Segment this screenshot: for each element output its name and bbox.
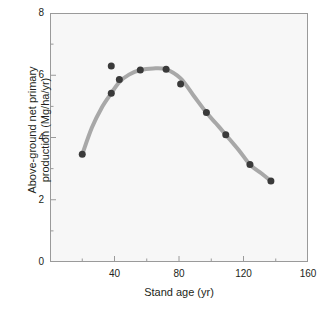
figure-container: 02468 4080120160 Stand age (yr) Above-gr… — [0, 0, 317, 312]
fitted-trend-line — [82, 68, 271, 181]
data-point-8 — [222, 131, 229, 138]
x-tick-label-120: 120 — [229, 269, 259, 279]
x-axis-major-ticks — [115, 256, 244, 262]
data-point-1 — [108, 62, 115, 69]
x-tick-label-40: 40 — [100, 269, 130, 279]
x-axis-title-text: Stand age (yr) — [144, 286, 214, 298]
data-point-4 — [137, 66, 144, 73]
data-point-markers — [79, 62, 275, 184]
data-point-10 — [267, 178, 274, 185]
y-axis-title-line-1: Above-ground net primary — [26, 5, 39, 255]
x-tick-label-160: 160 — [293, 269, 317, 279]
y-axis-title-line-2: production (Mg/ha/yr) — [39, 5, 52, 255]
data-point-7 — [203, 109, 210, 116]
data-point-3 — [116, 76, 123, 83]
y-tick-label-0: 0 — [22, 257, 44, 267]
data-point-9 — [246, 161, 253, 168]
data-point-5 — [163, 66, 170, 73]
data-point-6 — [177, 80, 184, 87]
x-tick-label-80: 80 — [164, 269, 194, 279]
data-point-2 — [108, 90, 115, 97]
data-point-0 — [79, 151, 86, 158]
x-axis-title: Stand age (yr) — [50, 286, 308, 298]
y-axis-title: Above-ground net primary production (Mg/… — [26, 5, 52, 255]
